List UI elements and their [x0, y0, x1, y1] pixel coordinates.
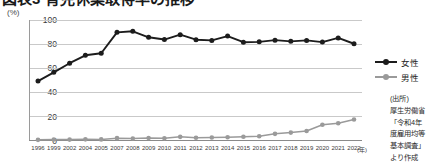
x-tick-label: 2020	[316, 145, 329, 151]
chart-figure: 図表3 育児休業取得率の推移 (%) 100 80 60 40 20 0 199…	[0, 0, 441, 168]
series-male	[36, 117, 357, 142]
source-line: 厚生労働省	[390, 105, 441, 117]
x-tick-label: 2021	[332, 145, 345, 151]
data-point	[273, 132, 278, 137]
data-point	[99, 137, 104, 142]
data-point	[225, 34, 230, 39]
data-point	[67, 61, 72, 66]
data-point	[162, 37, 167, 42]
data-point	[336, 121, 341, 126]
data-point	[83, 53, 88, 58]
data-point	[241, 40, 246, 45]
x-axis-ticks: 1996199920022004200520072008200920102011…	[29, 145, 389, 157]
x-tick-label: 2010	[158, 145, 171, 151]
data-point	[36, 138, 41, 143]
x-tick-label: 2005	[95, 145, 108, 151]
x-tick-label: 2018	[284, 145, 297, 151]
data-point	[336, 35, 341, 40]
data-point	[304, 38, 309, 43]
data-point	[115, 136, 120, 141]
plot-area	[29, 20, 362, 141]
x-tick-label: 1996	[31, 145, 44, 151]
x-tick-label: 2004	[79, 145, 92, 151]
data-point	[52, 137, 57, 142]
x-tick-label: 1999	[47, 145, 60, 151]
x-tick-label: 2002	[63, 145, 76, 151]
legend-marker-male	[383, 74, 389, 80]
data-point	[304, 129, 309, 134]
data-point	[178, 135, 183, 140]
data-point	[99, 51, 104, 56]
source-line: より作成	[390, 152, 441, 164]
page-title: 図表3 育児休業取得率の推移	[2, 0, 195, 7]
x-tick-label: 2014	[221, 145, 234, 151]
legend-label-male: 男性	[401, 71, 419, 83]
series-female	[36, 29, 357, 84]
legend-label-female: 女性	[401, 56, 419, 68]
data-point	[352, 41, 357, 46]
x-tick-label: 2017	[268, 145, 281, 151]
x-tick-label: 2016	[253, 145, 266, 151]
data-point	[178, 32, 183, 37]
x-tick-label: 2013	[205, 145, 218, 151]
x-axis-unit-label: (年)	[357, 145, 367, 154]
x-tick-label: 2012	[189, 145, 202, 151]
data-point	[115, 30, 120, 35]
data-point	[320, 123, 325, 128]
legend-item-female: 女性	[375, 54, 441, 69]
source-line: 基本調査」	[390, 140, 441, 152]
data-point	[210, 135, 215, 140]
data-point	[162, 136, 167, 141]
data-point	[289, 130, 294, 135]
data-point	[225, 135, 230, 140]
data-point	[131, 136, 136, 141]
data-point	[288, 39, 293, 44]
data-point	[209, 38, 214, 43]
legend-item-male: 男性	[375, 69, 441, 84]
legend-swatch-female	[375, 57, 397, 66]
data-point	[130, 29, 135, 34]
x-tick-label: 2007	[110, 145, 123, 151]
x-tick-label: 2011	[174, 145, 187, 151]
data-point	[51, 70, 56, 75]
data-point	[36, 79, 41, 84]
y-axis-unit-label: (%)	[7, 8, 19, 17]
data-point	[352, 117, 357, 122]
data-point	[241, 135, 246, 140]
series-container	[29, 20, 362, 141]
source-note: (出所) 厚生労働省 「令和4年 度雇用均等 基本調査」 より作成	[390, 93, 441, 164]
source-line: (出所)	[390, 93, 441, 105]
x-tick-label: 2019	[300, 145, 313, 151]
data-point	[83, 137, 88, 142]
x-tick-label: 2015	[237, 145, 250, 151]
data-point	[146, 35, 151, 40]
legend-swatch-male	[375, 72, 397, 81]
source-line: 「令和4年	[390, 117, 441, 129]
figure-title-strip: 図表3 育児休業取得率の推移	[0, 0, 441, 7]
data-point	[67, 137, 72, 142]
legend-marker-female	[383, 59, 389, 65]
data-point	[194, 135, 199, 140]
source-line: 度雇用均等	[390, 128, 441, 140]
data-point	[257, 39, 262, 44]
x-tick-label: 2009	[142, 145, 155, 151]
data-point	[320, 40, 325, 45]
data-point	[273, 38, 278, 43]
data-point	[194, 37, 199, 42]
legend: 女性 男性	[375, 54, 441, 84]
x-tick-label: 2008	[126, 145, 139, 151]
data-point	[146, 136, 151, 141]
data-point	[257, 134, 262, 139]
